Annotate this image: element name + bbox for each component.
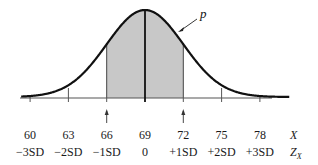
x-axis-name: X bbox=[290, 128, 297, 142]
x-tick-label: 69 bbox=[125, 128, 165, 142]
z-subscript: X bbox=[297, 152, 302, 161]
z-tick-label: 0 bbox=[125, 145, 165, 159]
z-tick-label: +2SD bbox=[202, 145, 242, 159]
curve-label-p: p bbox=[199, 6, 207, 21]
z-tick-label: +3SD bbox=[240, 145, 280, 159]
z-tick-label: +1SD bbox=[163, 145, 203, 159]
z-tick-label: −2SD bbox=[48, 145, 88, 159]
z-tick-label: −3SD bbox=[10, 145, 50, 159]
x-tick-label: 60 bbox=[10, 128, 50, 142]
x-tick-label: 72 bbox=[163, 128, 203, 142]
x-tick-label: 66 bbox=[87, 128, 127, 142]
x-tick-label: 75 bbox=[202, 128, 242, 142]
range-arrows bbox=[105, 109, 186, 123]
z-tick-label: −1SD bbox=[87, 145, 127, 159]
p-pointer bbox=[178, 19, 197, 32]
z-label: Z bbox=[290, 145, 297, 159]
x-tick-label: 63 bbox=[48, 128, 88, 142]
z-axis-name: ZX bbox=[290, 145, 302, 164]
x-tick-label: 78 bbox=[240, 128, 280, 142]
